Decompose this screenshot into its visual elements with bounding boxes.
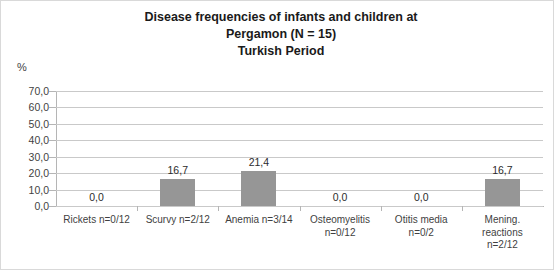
y-axis-tick-label: 20,0 — [1, 167, 49, 179]
bar-value-label: 16,7 — [168, 164, 188, 176]
gridline — [56, 107, 543, 108]
bar-value-label: 21,4 — [249, 156, 269, 168]
category-label-line: reactions — [482, 227, 523, 240]
gridline — [56, 124, 543, 125]
gridline — [56, 91, 543, 92]
gridline — [56, 157, 543, 158]
x-axis-category-label: Anemia n=3/14 — [225, 214, 293, 227]
category-label-line: Anemia n=3/14 — [225, 214, 293, 227]
x-axis-category-label: Mening.reactionsn=2/12 — [482, 214, 523, 252]
category-separator-tick — [300, 206, 301, 211]
bar — [241, 171, 276, 206]
category-separator-tick — [462, 206, 463, 211]
bar — [485, 179, 520, 206]
chart-container: Disease frequencies of infants and child… — [0, 0, 554, 270]
category-label-line: n=0/12 — [310, 227, 370, 240]
y-axis-tick-label: 60,0 — [1, 101, 49, 113]
bar-value-label: 0,0 — [414, 191, 429, 203]
category-label-line: Mening. — [482, 214, 523, 227]
y-axis-tick-mark — [49, 206, 56, 207]
category-label-line: n=0/2 — [395, 227, 448, 240]
category-label-line: Osteomyelitis — [310, 214, 370, 227]
y-axis-tick-label: 0,0 — [1, 200, 49, 212]
x-axis-category-label: Osteomyelitisn=0/12 — [310, 214, 370, 239]
gridline — [56, 140, 543, 141]
chart-title-line-3: Turkish Period — [61, 43, 501, 60]
y-axis-tick-label: 40,0 — [1, 134, 49, 146]
bar-value-label: 0,0 — [89, 191, 104, 203]
bar-value-label: 16,7 — [492, 164, 512, 176]
category-separator-tick — [137, 206, 138, 211]
category-label-line: Scurvy n=2/12 — [146, 214, 210, 227]
chart-title-line-1: Disease frequencies of infants and child… — [61, 9, 501, 26]
bar-value-label: 0,0 — [333, 191, 348, 203]
category-label-line: Otitis media — [395, 214, 448, 227]
category-separator-tick — [381, 206, 382, 211]
y-axis-tick-mark — [49, 190, 56, 191]
y-axis-tick-label: 30,0 — [1, 151, 49, 163]
bar — [160, 179, 195, 206]
y-axis-tick-mark — [49, 107, 56, 108]
y-axis-tick-label: 70,0 — [1, 85, 49, 97]
y-axis-tick-mark — [49, 91, 56, 92]
category-label-line: Rickets n=0/12 — [63, 214, 129, 227]
gridline — [56, 190, 543, 191]
y-axis-tick-label: 10,0 — [1, 184, 49, 196]
category-label-line: n=2/12 — [482, 239, 523, 252]
y-axis-tick-mark — [49, 140, 56, 141]
y-axis-unit-label: % — [17, 61, 27, 73]
chart-title: Disease frequencies of infants and child… — [61, 9, 501, 60]
y-axis-tick-mark — [49, 173, 56, 174]
x-axis-category-label: Scurvy n=2/12 — [146, 214, 210, 227]
plot-area — [56, 91, 543, 206]
gridline — [56, 173, 543, 174]
y-axis-tick-mark — [49, 157, 56, 158]
x-axis-category-label: Rickets n=0/12 — [63, 214, 129, 227]
x-axis-category-label: Otitis median=0/2 — [395, 214, 448, 239]
y-axis-tick-label: 50,0 — [1, 118, 49, 130]
category-separator-tick — [218, 206, 219, 211]
chart-title-line-2: Pergamon (N = 15) — [61, 26, 501, 43]
y-axis-tick-mark — [49, 124, 56, 125]
